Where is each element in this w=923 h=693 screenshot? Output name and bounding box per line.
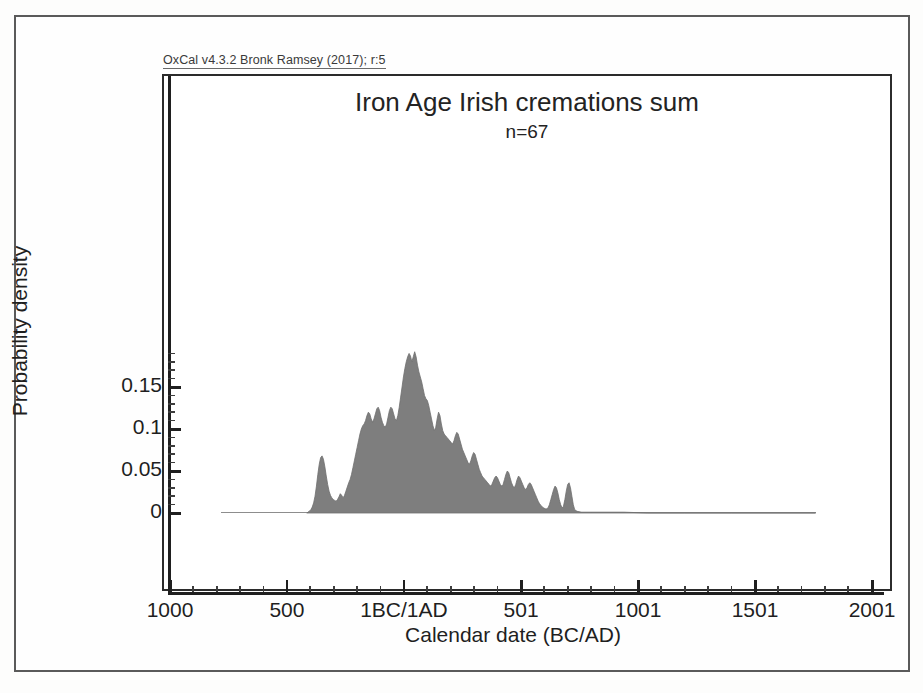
x-minor-tick [497, 586, 499, 592]
y-minor-tick [168, 353, 175, 355]
y-tick-label: 0.15 [76, 373, 162, 397]
y-minor-tick [168, 378, 175, 380]
y-minor-tick [168, 437, 175, 439]
plot-area: 00.050.10.1510005001BC/1AD50110011501200… [162, 74, 892, 591]
x-minor-tick [239, 586, 241, 592]
x-minor-tick [450, 586, 452, 592]
x-minor-tick [660, 586, 662, 592]
y-major-tick [168, 386, 181, 389]
y-tick-label: 0 [76, 499, 162, 523]
x-minor-tick [543, 586, 545, 592]
x-minor-tick [567, 586, 569, 592]
x-major-tick [871, 580, 874, 592]
x-major-tick [754, 580, 757, 592]
x-minor-tick [707, 586, 709, 592]
y-axis-title: Probability density [8, 201, 32, 461]
y-minor-tick [168, 395, 175, 397]
probability-distribution-area [307, 352, 816, 513]
x-major-tick [637, 580, 640, 592]
x-tick-label: 2001 [797, 598, 923, 622]
x-minor-tick [309, 586, 311, 592]
chart-sample-size: n=67 [162, 121, 892, 143]
y-tick-label: 0.05 [76, 457, 162, 481]
y-minor-tick [168, 420, 175, 422]
x-minor-tick [473, 586, 475, 592]
x-major-tick [169, 580, 172, 592]
y-minor-tick [168, 479, 175, 481]
x-minor-tick [614, 586, 616, 592]
x-minor-tick [426, 586, 428, 592]
x-minor-tick [356, 586, 358, 592]
x-minor-tick [192, 586, 194, 592]
x-minor-tick [684, 586, 686, 592]
x-minor-tick [731, 586, 733, 592]
x-minor-tick [847, 586, 849, 592]
y-minor-tick [168, 411, 175, 413]
x-axis-title: Calendar date (BC/AD) [148, 623, 878, 647]
x-minor-tick [824, 586, 826, 592]
x-minor-tick [216, 586, 218, 592]
y-major-tick [168, 512, 181, 515]
y-major-tick [168, 470, 181, 473]
y-minor-tick [168, 445, 175, 447]
x-minor-tick [590, 586, 592, 592]
y-minor-tick [168, 487, 175, 489]
x-minor-tick [777, 586, 779, 592]
oxcal-credit-label: OxCal v4.3.2 Bronk Ramsey (2017); r:5 [163, 53, 386, 69]
y-minor-tick [168, 504, 175, 506]
y-minor-tick [168, 403, 175, 405]
x-minor-tick [333, 586, 335, 592]
y-minor-tick [168, 462, 175, 464]
x-minor-tick [380, 586, 382, 592]
x-minor-tick [263, 586, 265, 592]
x-major-tick [520, 580, 523, 592]
chart-title: Iron Age Irish cremations sum [162, 87, 892, 118]
distribution-curve [164, 76, 894, 593]
x-minor-tick [801, 586, 803, 592]
y-minor-tick [168, 361, 175, 363]
y-major-tick [168, 428, 181, 431]
y-minor-tick [168, 453, 175, 455]
x-major-tick [403, 580, 406, 592]
y-minor-tick [168, 369, 175, 371]
chart-page: OxCal v4.3.2 Bronk Ramsey (2017); r:5 00… [0, 0, 923, 693]
x-major-tick [286, 580, 289, 592]
y-tick-label: 0.1 [76, 415, 162, 439]
scan-frame: OxCal v4.3.2 Bronk Ramsey (2017); r:5 00… [14, 15, 910, 672]
y-minor-tick [168, 495, 175, 497]
